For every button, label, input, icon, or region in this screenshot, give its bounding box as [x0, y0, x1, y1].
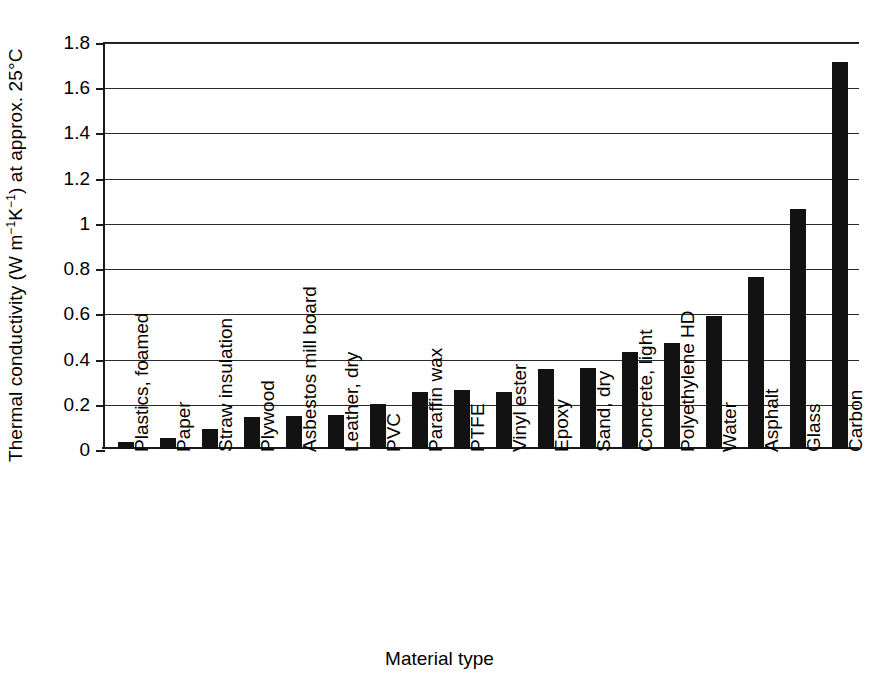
- y-axis-tick-label: 1: [79, 213, 90, 232]
- gridline: [105, 224, 859, 225]
- x-axis-tick-label-slot: Asphalt: [761, 272, 783, 452]
- x-axis-tick-label: Glass: [803, 272, 825, 452]
- y-axis-tick-mark: [96, 224, 105, 226]
- x-axis-tick-label-slot: PTFE: [467, 272, 489, 452]
- x-axis-tick-label-slot: Polyethylene HD: [677, 272, 699, 452]
- x-axis-tick-label: Asbestos mill board: [299, 272, 321, 452]
- x-axis-tick-label-slot: Carbon: [845, 272, 867, 452]
- y-axis-title-exponent-2: −1: [4, 194, 18, 208]
- x-axis-tick-label: Vinyl ester: [509, 272, 531, 452]
- y-axis-tick-labels: 00.20.40.60.811.21.41.61.8: [36, 0, 98, 470]
- x-axis-tick-label: Water: [719, 272, 741, 452]
- y-axis-title-suffix: ) at approx. 25°C: [5, 49, 26, 195]
- x-axis-tick-labels: Plastics, foamedPaperStraw insulationPly…: [103, 452, 859, 632]
- x-axis-tick-label-slot: Vinyl ester: [509, 272, 531, 452]
- x-axis-tick-label: Asphalt: [761, 272, 783, 452]
- y-axis-tick-mark: [96, 179, 105, 181]
- x-axis-tick-label-slot: Paper: [173, 272, 195, 452]
- y-axis-tick-label: 0.6: [64, 304, 90, 323]
- gridline: [105, 43, 859, 44]
- gridline: [105, 133, 859, 134]
- y-axis-title-exponent-1: −1: [4, 221, 18, 235]
- x-axis-tick-label-slot: Water: [719, 272, 741, 452]
- x-axis-tick-label: Plastics, foamed: [131, 272, 153, 452]
- x-axis-tick-label: Paper: [173, 272, 195, 452]
- y-axis-tick-mark: [96, 133, 105, 135]
- x-axis-tick-label-slot: Plywood: [257, 272, 279, 452]
- x-axis-tick-label-slot: Plastics, foamed: [131, 272, 153, 452]
- y-axis-title: Thermal conductivity (W m−1K−1) at appro…: [6, 49, 25, 462]
- y-axis-tick-label: 1.8: [64, 33, 90, 52]
- x-axis-tick-label-slot: Concrete, light: [635, 272, 657, 452]
- x-axis-tick-label-slot: Asbestos mill board: [299, 272, 321, 452]
- gridline: [105, 269, 859, 270]
- x-axis-tick-label: Sand, dry: [593, 272, 615, 452]
- gridline: [105, 179, 859, 180]
- thermal-conductivity-bar-chart: Thermal conductivity (W m−1K−1) at appro…: [0, 0, 879, 688]
- x-axis-tick-label: PTFE: [467, 272, 489, 452]
- x-axis-tick-label: Paraffin wax: [425, 272, 447, 452]
- y-axis-tick-label: 1.6: [64, 78, 90, 97]
- y-axis-tick-label: 0.4: [64, 349, 90, 368]
- y-axis-tick-label: 0: [79, 440, 90, 459]
- y-axis-tick-label: 0.8: [64, 259, 90, 278]
- x-axis-tick-label: Straw insulation: [215, 272, 237, 452]
- y-axis-tick-label: 1.2: [64, 168, 90, 187]
- y-axis-tick-mark: [96, 360, 105, 362]
- y-axis-tick-mark: [96, 43, 105, 45]
- y-axis-tick-mark: [96, 269, 105, 271]
- y-axis-tick-label: 1.4: [64, 123, 90, 142]
- y-axis-tick-mark: [96, 88, 105, 90]
- x-axis-tick-label-slot: Epoxy: [551, 272, 573, 452]
- y-axis-tick-label: 0.2: [64, 394, 90, 413]
- x-axis-tick-label-slot: Paraffin wax: [425, 272, 447, 452]
- x-axis-tick-label: Carbon: [845, 272, 867, 452]
- y-axis-title-prefix: Thermal conductivity (W m: [5, 235, 26, 462]
- y-axis-title-container: Thermal conductivity (W m−1K−1) at appro…: [0, 0, 34, 470]
- gridline: [105, 88, 859, 89]
- x-axis-tick-label: PVC: [383, 272, 405, 452]
- y-axis-title-mid: K: [5, 208, 26, 221]
- y-axis-tick-mark: [96, 314, 105, 316]
- x-axis-tick-label-slot: Sand, dry: [593, 272, 615, 452]
- x-axis-tick-label-slot: Leather, dry: [341, 272, 363, 452]
- x-axis-tick-label: Epoxy: [551, 272, 573, 452]
- x-axis-tick-label: Leather, dry: [341, 272, 363, 452]
- x-axis-tick-label-slot: PVC: [383, 272, 405, 452]
- x-axis-tick-label-slot: Glass: [803, 272, 825, 452]
- x-axis-tick-label: Concrete, light: [635, 272, 657, 452]
- y-axis-tick-mark: [96, 405, 105, 407]
- x-axis-tick-label: Polyethylene HD: [677, 272, 699, 452]
- x-axis-tick-label: Plywood: [257, 272, 279, 452]
- x-axis-tick-label-slot: Straw insulation: [215, 272, 237, 452]
- x-axis-title: Material type: [0, 648, 879, 670]
